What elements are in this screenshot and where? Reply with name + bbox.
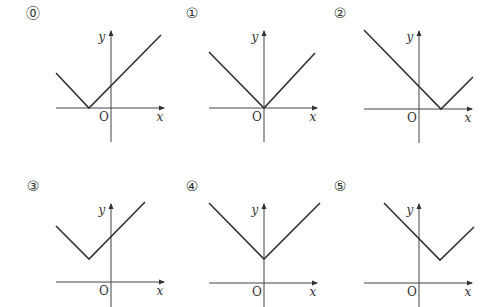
origin-label: O [407,111,417,125]
origin-label: O [252,285,262,299]
x-axis-label: x [465,285,472,299]
choice-number: ③ [27,178,40,194]
choice-graph-5[interactable]: ⑤yxO [334,178,474,307]
choice-number: ⓪ [26,5,40,21]
y-axis-label: y [406,203,414,217]
choice-graph-0[interactable]: ⓪yxO [26,5,164,142]
choice-graph-1[interactable]: ①yxO [186,5,317,142]
choice-number: ① [186,5,199,21]
x-axis-label: x [157,284,164,298]
origin-label: O [99,284,109,298]
x-axis-label: x [157,110,164,124]
x-axis-label: x [310,285,317,299]
choice-graph-2[interactable]: ②yxO [334,5,473,143]
origin-label: O [407,285,417,299]
x-axis-label: x [310,110,317,124]
choice-graph-3[interactable]: ③yxO [27,178,164,307]
absolute-value-curve [209,52,315,108]
x-axis-label: x [465,111,472,125]
y-axis-label: y [98,30,106,44]
choice-number: ④ [186,178,199,194]
absolute-value-curve [384,203,474,260]
choice-number: ⑤ [334,178,347,194]
y-axis-label: y [406,30,414,44]
y-axis-label: y [251,30,259,44]
choice-number: ② [334,5,347,21]
answer-choices-diagram: ⓪yxO①yxO②yxO③yxO④yxO⑤yxO [0,0,501,307]
choice-graph-4[interactable]: ④yxO [186,178,320,307]
origin-label: O [252,110,262,124]
y-axis-label: y [251,203,259,217]
origin-label: O [99,110,109,124]
absolute-value-curve [56,35,161,108]
y-axis-label: y [98,203,106,217]
